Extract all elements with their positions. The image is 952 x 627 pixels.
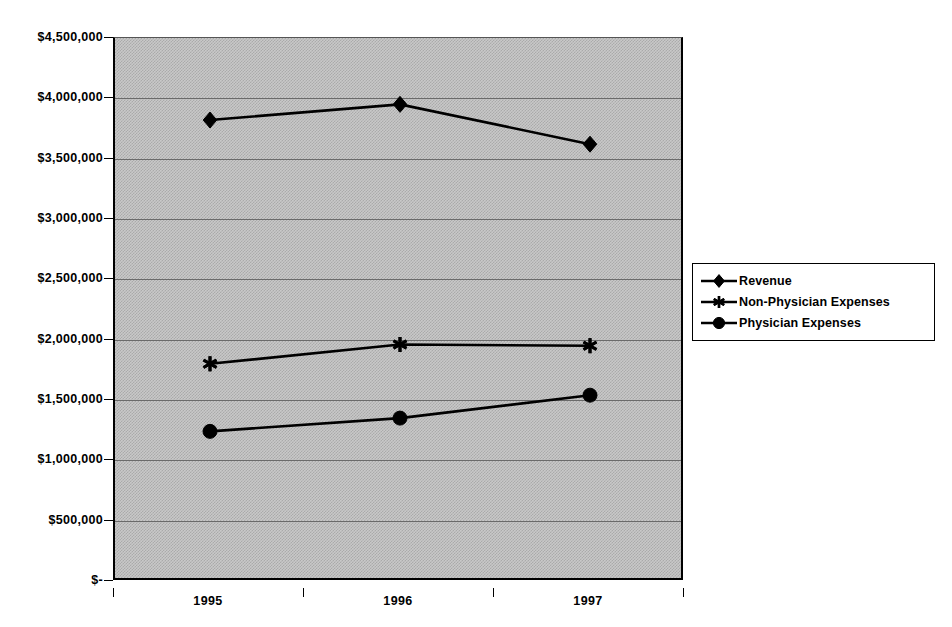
data-point-marker	[393, 411, 407, 425]
y-axis-tick-mark	[104, 97, 113, 98]
y-axis-tick-mark	[104, 399, 113, 400]
data-point-marker	[393, 96, 407, 112]
circle-marker-icon	[699, 315, 739, 331]
x-axis-tick-mark	[683, 588, 684, 597]
data-series-layer	[115, 38, 685, 581]
star-marker-icon	[699, 294, 739, 310]
y-axis-tick-mark	[104, 37, 113, 38]
plot-area	[113, 37, 683, 580]
chart-title	[0, 0, 952, 7]
x-axis-labels: 199519961997	[113, 588, 683, 618]
x-axis-tick-mark	[303, 588, 304, 597]
chart-legend: RevenueNon-Physician ExpensesPhysician E…	[692, 263, 935, 341]
data-point-marker	[583, 388, 597, 402]
data-point-marker	[203, 424, 217, 438]
series-non-physician-expenses	[204, 337, 597, 371]
y-axis-ticks	[0, 37, 113, 580]
y-axis-tick-mark	[104, 520, 113, 521]
legend-item-label: Physician Expenses	[739, 316, 861, 330]
legend-item[interactable]: Revenue	[699, 270, 928, 291]
line-chart: $4,500,000$4,000,000$3,500,000$3,000,000…	[0, 0, 952, 627]
x-axis-tick-label: 1996	[338, 594, 458, 608]
y-axis-tick-mark	[104, 278, 113, 279]
legend-item-label: Non-Physician Expenses	[739, 295, 890, 309]
y-axis-tick-mark	[104, 158, 113, 159]
data-point-marker	[203, 112, 217, 128]
series-physician-expenses	[203, 388, 597, 438]
x-axis-tick-mark	[113, 588, 114, 597]
diamond-marker-icon	[699, 273, 739, 289]
y-axis-tick-mark	[104, 339, 113, 340]
legend-item[interactable]: Physician Expenses	[699, 312, 928, 333]
series-revenue	[203, 96, 597, 152]
x-axis-tick-mark	[493, 588, 494, 597]
y-axis-tick-mark	[104, 580, 113, 581]
x-axis-tick-label: 1995	[148, 594, 268, 608]
y-axis-tick-mark	[104, 459, 113, 460]
legend-item[interactable]: Non-Physician Expenses	[699, 291, 928, 312]
x-axis-tick-label: 1997	[528, 594, 648, 608]
y-axis-tick-mark	[104, 218, 113, 219]
legend-item-label: Revenue	[739, 274, 792, 288]
data-point-marker	[583, 136, 597, 152]
